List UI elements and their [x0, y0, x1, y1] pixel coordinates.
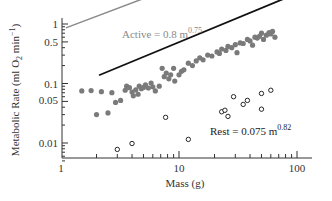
active-data-point	[79, 88, 84, 93]
active-data-point	[190, 63, 195, 68]
x-axis-ticks	[97, 151, 297, 158]
rest-data-point	[269, 88, 273, 92]
active-data-point	[146, 85, 151, 90]
active-data-point	[200, 57, 205, 62]
active-data-point	[261, 37, 266, 42]
rest-equation: Rest = 0.075 m0.82	[210, 123, 291, 137]
active-fit-line	[66, 0, 302, 28]
active-data-point	[153, 88, 158, 93]
active-data-point	[135, 92, 140, 97]
active-data-point	[259, 31, 264, 36]
active-data-point	[171, 66, 176, 71]
rest-data-point	[163, 115, 167, 119]
active-data-point	[160, 66, 165, 71]
y-axis-ticks	[62, 24, 68, 161]
active-data-point	[105, 110, 110, 115]
x-tick-label-10: 10	[174, 162, 186, 174]
rest-data-point	[115, 147, 119, 151]
metabolic-rate-chart: 1 0.5 0.1 0.05 0.01 1 10 100 Mass (g) Me…	[0, 0, 332, 201]
rest-data-point	[231, 95, 235, 99]
active-data-point	[109, 90, 114, 95]
active-data-point	[131, 93, 136, 98]
y-axis-title: Metabolic Rate (ml O2 min−1)	[8, 24, 24, 157]
active-data-point	[172, 78, 177, 83]
active-data-point	[241, 41, 246, 46]
active-data-point	[270, 29, 275, 34]
rest-data-points	[115, 88, 273, 152]
rest-data-point	[259, 107, 263, 111]
x-axis-title: Mass (g)	[166, 177, 205, 190]
active-data-point	[272, 35, 277, 40]
active-data-point	[181, 67, 186, 72]
x-tick-label-1: 1	[58, 162, 64, 174]
active-data-point	[168, 72, 173, 77]
y-tick-label-0.1: 0.1	[44, 78, 58, 90]
y-tick-label-0.5: 0.5	[44, 36, 58, 48]
active-data-point	[234, 50, 239, 55]
rest-data-point	[241, 102, 245, 106]
active-data-point	[157, 84, 162, 89]
active-data-point	[94, 112, 99, 117]
y-tick-label-1: 1	[53, 18, 59, 30]
rest-data-point	[226, 114, 230, 118]
active-data-point	[209, 53, 214, 58]
y-tick-label-0.05: 0.05	[39, 94, 59, 106]
rest-data-point	[130, 141, 134, 145]
active-data-point	[217, 51, 222, 56]
active-data-point	[233, 42, 238, 47]
active-data-point	[89, 88, 94, 93]
x-tick-label-100: 100	[289, 162, 306, 174]
rest-data-point	[186, 137, 190, 141]
y-tick-label-0.01: 0.01	[39, 137, 58, 149]
active-data-point	[99, 89, 104, 94]
rest-data-point	[259, 91, 263, 95]
rest-data-point	[223, 108, 227, 112]
active-data-point	[113, 100, 118, 105]
active-data-point	[118, 98, 123, 103]
active-data-point	[250, 43, 255, 48]
rest-data-point	[245, 98, 249, 102]
